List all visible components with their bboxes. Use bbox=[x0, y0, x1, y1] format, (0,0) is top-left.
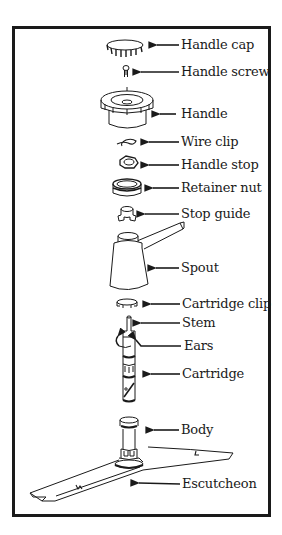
ears-illustration bbox=[116, 331, 135, 348]
label-cartridge-clip: Cartridge clip bbox=[182, 296, 271, 311]
label-escutcheon: Escutcheon bbox=[182, 476, 257, 491]
label-retainer-nut: Retainer nut bbox=[181, 180, 262, 195]
retainer-nut-illustration bbox=[113, 179, 141, 196]
label-handle-screw: Handle screw bbox=[181, 64, 269, 79]
spout-illustration bbox=[110, 222, 184, 290]
handle-screw-illustration bbox=[123, 66, 129, 78]
label-ears: Ears bbox=[184, 338, 213, 353]
body-illustration bbox=[115, 417, 143, 468]
handle-stop-illustration bbox=[120, 156, 138, 168]
stop-guide-illustration bbox=[118, 207, 136, 222]
label-wire-clip: Wire clip bbox=[181, 134, 238, 149]
label-stem: Stem bbox=[182, 315, 215, 330]
label-stop-guide: Stop guide bbox=[181, 206, 250, 221]
cartridge-clip-illustration bbox=[117, 299, 137, 308]
label-spout: Spout bbox=[181, 260, 219, 275]
label-body: Body bbox=[181, 422, 213, 437]
faucet-exploded-diagram bbox=[0, 0, 282, 535]
label-handle-cap: Handle cap bbox=[181, 37, 254, 52]
label-cartridge: Cartridge bbox=[182, 366, 244, 381]
label-handle-stop: Handle stop bbox=[181, 157, 259, 172]
stem-illustration bbox=[127, 316, 131, 331]
wire-clip-illustration bbox=[117, 139, 136, 146]
label-handle: Handle bbox=[181, 106, 227, 121]
handle-illustration bbox=[101, 87, 153, 128]
escutcheon-illustration bbox=[30, 447, 233, 501]
handle-cap-illustration bbox=[107, 40, 143, 57]
